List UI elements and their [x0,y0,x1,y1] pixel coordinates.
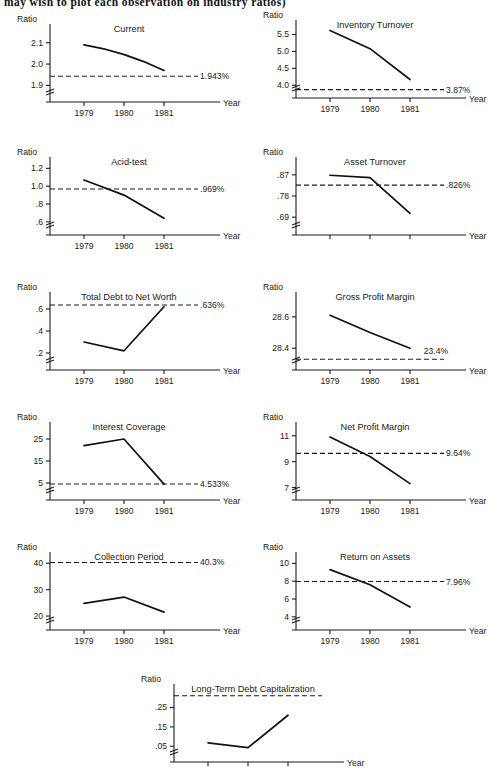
y-tick-label: 28.6 [272,312,289,322]
data-line [84,180,164,218]
x-axis-label: Year [223,98,241,108]
x-axis-label: Year [469,626,487,636]
data-line [84,597,164,612]
industry-reference-label: .636% [200,300,225,310]
chart-title: Acid-test [111,157,147,167]
chart-return-on-assets: RatioYear10864197919801981Return on Asse… [252,540,484,658]
chart-long-term-debt-capitalization: RatioYear.25.15.05Long-Term Debt Capital… [130,672,362,770]
x-tick-label: 1980 [114,376,133,386]
x-tick-label: 1980 [114,241,133,251]
y-tick-label: .8 [36,199,43,209]
y-tick-label: 20 [33,611,43,621]
y-tick-label: 6 [284,594,289,604]
y-tick-label: 8 [284,576,289,586]
y-tick-label: 5.0 [277,46,289,56]
x-tick-label: 1980 [360,636,379,646]
chart-svg-acid-test: RatioYear1.21.0.8.6197919801981Acid-test… [6,145,238,263]
industry-reference-label: 40.3% [200,557,225,567]
y-tick-label: 5.5 [277,29,289,39]
data-line [84,307,164,351]
y-axis-label: Ratio [263,282,283,292]
industry-reference-label: 1.943% [200,71,230,81]
data-line [330,30,410,79]
x-tick-label: 1981 [154,108,173,118]
chart-svg-net-profit-margin: RatioYear1197197919801981Net Profit Marg… [252,410,484,528]
chart-acid-test: RatioYear1.21.0.8.6197919801981Acid-test… [6,145,238,263]
data-line [84,45,164,71]
y-tick-label: 1.2 [31,163,43,173]
chart-title: Asset Turnover [344,157,406,167]
x-tick-label: 1979 [74,108,93,118]
chart-svg-total-debt-to-net-worth: RatioYear.6.4.2197919801981Total Debt to… [6,280,238,398]
x-tick-label: 1980 [114,636,133,646]
chart-title: Total Debt to Net Worth [81,292,176,302]
x-tick-label: 1980 [360,376,379,386]
data-line [330,175,410,213]
y-tick-label: 15 [33,456,43,466]
y-tick-label: 4.5 [277,63,289,73]
y-tick-label: 11 [280,431,289,441]
chart-title: Long-Term Debt Capitalization [191,684,315,694]
x-axis-label: Year [347,758,365,768]
chart-asset-turnover: RatioYear.87.78.69Asset Turnover.826% [252,145,484,263]
y-axis-label: Ratio [141,674,161,684]
industry-reference-label: 9.64% [446,448,471,458]
x-axis-label: Year [223,626,241,636]
chart-svg-interest-coverage: RatioYear25155197919801981Interest Cover… [6,410,238,528]
y-axis-label: Ratio [17,147,37,157]
y-tick-label: .2 [36,348,43,358]
chart-title: Collection Period [94,552,163,562]
y-tick-label: 4.0 [277,80,289,90]
y-tick-label: .6 [36,217,43,227]
x-tick-label: 1980 [114,506,133,516]
x-tick-label: 1981 [400,506,419,516]
x-tick-label: 1981 [154,636,173,646]
industry-reference-label: 7.96% [446,577,471,587]
chart-gross-profit-margin: RatioYear28.628.4197919801981Gross Profi… [252,280,484,398]
industry-reference-label: .826% [446,180,471,190]
chart-collection-period: RatioYear403020197919801981Collection Pe… [6,540,238,658]
page-header-text: may wish to plot each observation on ind… [4,0,484,8]
y-axis-label: Ratio [263,147,283,157]
y-axis-label: Ratio [263,10,283,20]
data-line [330,437,410,484]
y-tick-label: 1.9 [31,80,43,90]
y-axis-label: Ratio [263,542,283,552]
x-axis-label: Year [469,366,487,376]
y-tick-label: 9 [284,457,289,467]
y-tick-label: 2.0 [31,59,43,69]
chart-svg-gross-profit-margin: RatioYear28.628.4197919801981Gross Profi… [252,280,484,398]
x-axis-label: Year [469,496,487,506]
y-tick-label: 30 [33,585,43,595]
y-axis-label: Ratio [17,14,37,24]
chart-title: Net Profit Margin [341,422,410,432]
industry-reference-label: .969% [200,184,225,194]
y-tick-label: .25 [155,702,167,712]
x-tick-label: 1981 [154,376,173,386]
x-tick-label: 1979 [320,104,339,114]
chart-current: RatioYear2.12.01.9197919801981Current1.9… [6,12,238,130]
y-tick-label: 2.1 [31,38,43,48]
x-axis-label: Year [469,94,487,104]
y-tick-label: 10 [279,558,289,568]
x-tick-label: 1981 [154,241,173,251]
x-tick-label: 1981 [400,104,419,114]
industry-reference-label: 3.87% [446,85,471,95]
x-axis-label: Year [223,231,241,241]
x-tick-label: 1981 [400,376,419,386]
industry-reference-label: 23.4% [424,346,449,356]
y-axis-label: Ratio [263,412,283,422]
chart-title: Interest Coverage [92,422,165,432]
chart-inventory-turnover: RatioYear5.55.04.54.0197919801981Invento… [252,8,484,126]
chart-title: Inventory Turnover [337,20,414,30]
x-tick-label: 1979 [320,506,339,516]
x-axis-label: Year [223,496,241,506]
y-tick-label: .87 [277,170,289,180]
data-line [330,315,410,348]
y-axis-label: Ratio [17,412,37,422]
x-tick-label: 1980 [360,506,379,516]
y-tick-label: 5 [38,478,43,488]
x-tick-label: 1979 [74,636,93,646]
x-axis-label: Year [223,366,241,376]
